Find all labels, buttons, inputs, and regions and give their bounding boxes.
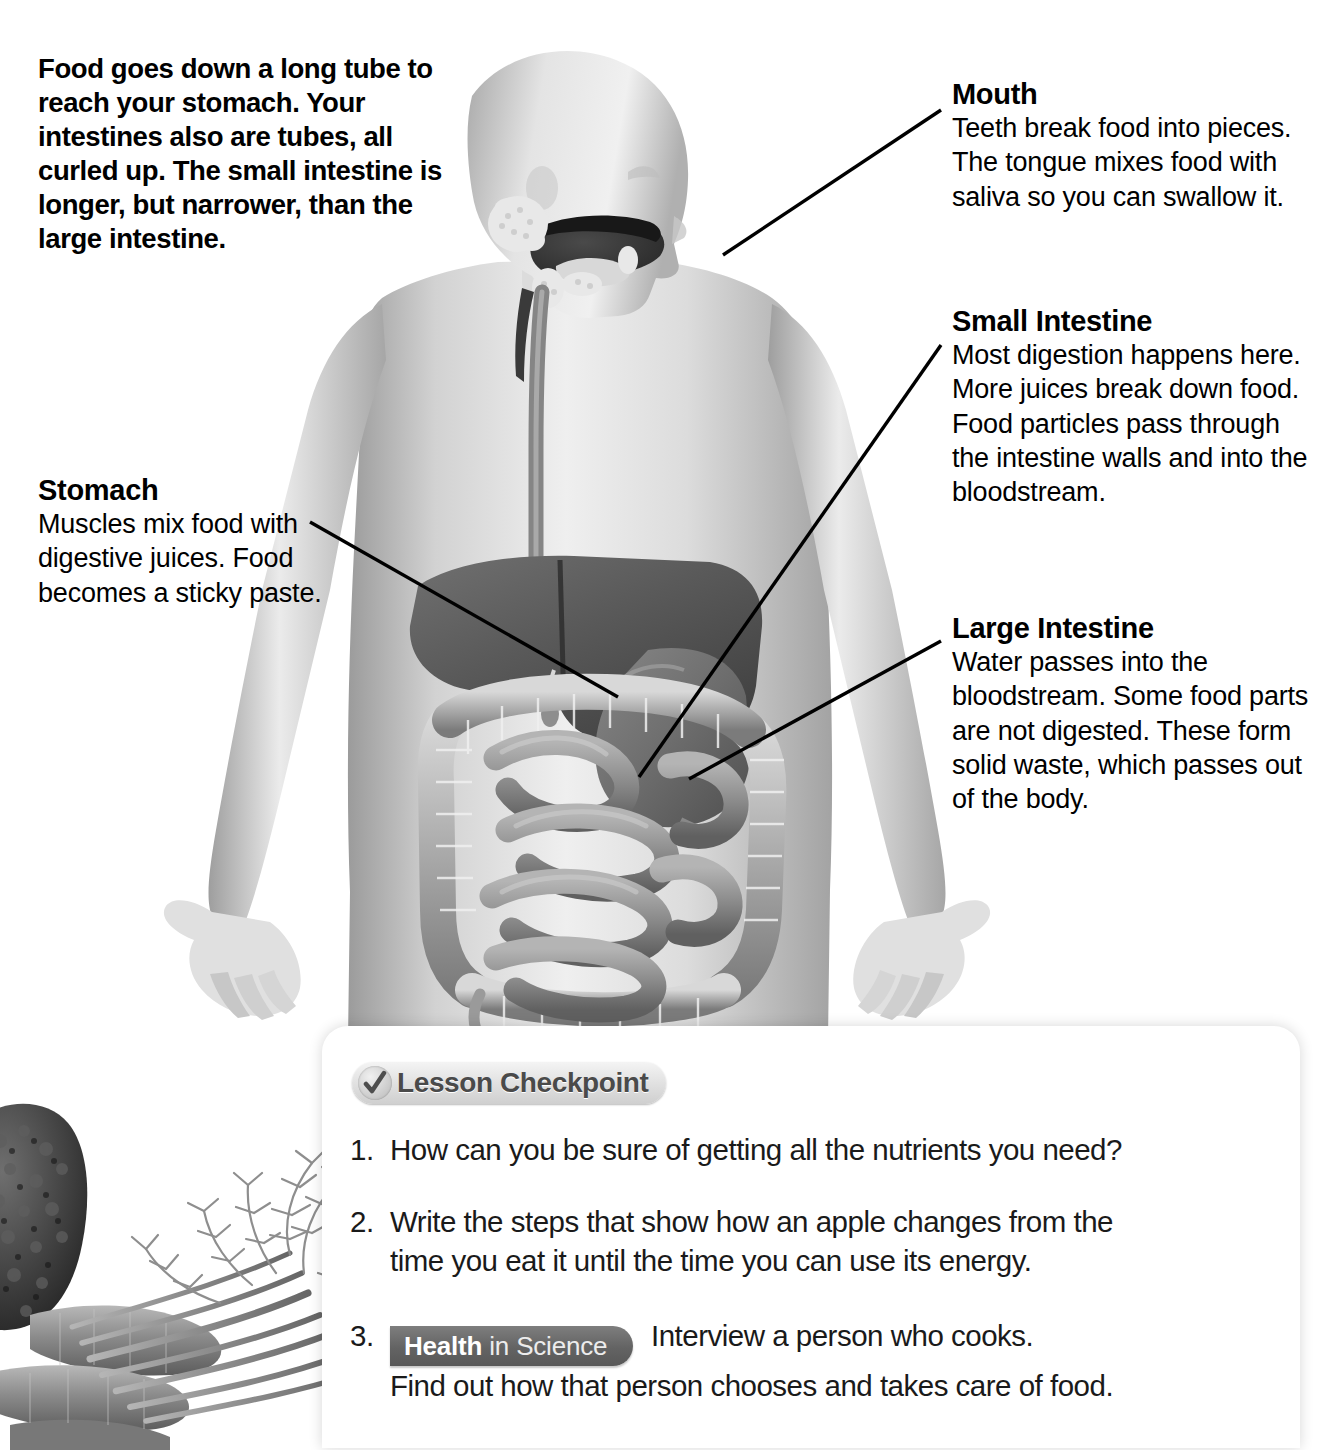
question-2-line-1: Write the steps that show how an apple c…	[390, 1202, 1285, 1241]
callout-small-intestine-title: Small Intestine	[952, 305, 1318, 337]
health-in-science-badge-bold: Health	[404, 1329, 482, 1364]
callout-stomach: Stomach Muscles mix food with digestive …	[38, 474, 358, 610]
question-3-number: 3.	[350, 1316, 390, 1355]
callout-large-intestine-body: Water passes into the bloodstream. Some …	[952, 645, 1312, 815]
intro-paragraph: Food goes down a long tube to reach your…	[38, 52, 458, 257]
checkpoint-question-1: 1. How can you be sure of getting all th…	[350, 1130, 1280, 1169]
lesson-checkpoint-badge: Lesson Checkpoint	[352, 1062, 666, 1104]
health-in-science-badge-rest: in Science	[489, 1329, 607, 1364]
nose-detail	[672, 216, 686, 244]
callout-mouth-title: Mouth	[952, 78, 1312, 110]
question-2-number: 2.	[350, 1202, 390, 1241]
checkmark-icon	[358, 1066, 392, 1100]
checkpoint-question-2: 2. Write the steps that show how an appl…	[350, 1202, 1285, 1280]
callout-small-intestine-body: Most digestion happens here. More juices…	[952, 338, 1318, 508]
broccoli	[0, 1104, 87, 1330]
callout-small-intestine: Small Intestine Most digestion happens h…	[952, 305, 1318, 509]
question-1-number: 1.	[350, 1130, 390, 1169]
callout-large-intestine: Large Intestine Water passes into the bl…	[952, 612, 1312, 816]
callout-large-intestine-title: Large Intestine	[952, 612, 1312, 644]
callout-mouth: Mouth Teeth break food into pieces. The …	[952, 78, 1312, 214]
question-1-text: How can you be sure of getting all the n…	[390, 1130, 1280, 1169]
question-3-line-2: Find out how that person chooses and tak…	[350, 1366, 1285, 1405]
health-in-science-badge[interactable]: Health in Science	[390, 1326, 633, 1366]
right-hand	[853, 900, 990, 1020]
callout-stomach-title: Stomach	[38, 474, 358, 506]
question-3-line-1: Interview a person who cooks.	[651, 1319, 1033, 1352]
callout-stomach-body: Muscles mix food with digestive juices. …	[38, 507, 358, 609]
checkpoint-question-3: 3. Health in Science Interview a person …	[350, 1316, 1285, 1406]
question-2-line-2: time you eat it until the time you can u…	[350, 1241, 1285, 1280]
lesson-checkpoint-title: Lesson Checkpoint	[397, 1067, 648, 1099]
lesson-checkpoint-card: Lesson Checkpoint 1. How can you be sure…	[322, 1026, 1300, 1448]
callout-mouth-body: Teeth break food into pieces. The tongue…	[952, 111, 1312, 213]
